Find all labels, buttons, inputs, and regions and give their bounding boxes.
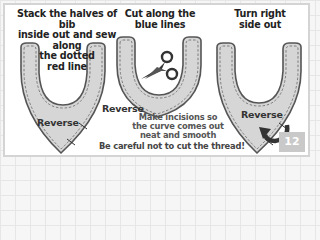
step-3-reverse-label: Reverse: [241, 109, 283, 120]
step-3-caption: Turn right side out: [225, 9, 295, 30]
step-2-note: Make incisions so the curve comes out ne…: [125, 113, 231, 140]
scissors-icon: [141, 52, 177, 79]
step-1-caption: Stack the halves of bib inside out and s…: [9, 9, 125, 72]
step-1-reverse-label: Reverse: [37, 117, 79, 128]
instruction-panel: Stack the halves of bib inside out and s…: [3, 3, 310, 157]
step-2-warning: Be careful not to cut the thread!: [99, 141, 245, 151]
page-number-badge: 12: [279, 132, 305, 152]
step-2-caption: Cut along the blue lines: [115, 9, 205, 30]
